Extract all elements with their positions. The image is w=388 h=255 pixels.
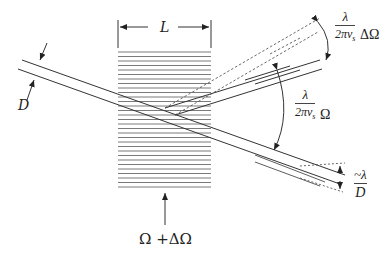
beam-diameter-label: D: [18, 98, 29, 112]
deflection-angle-numerator: λ: [302, 88, 308, 103]
grating-length-label: L: [160, 20, 169, 34]
scan-angle-suffix: ΔΩ: [360, 28, 379, 42]
scan-angle-fraction: λ 2πvs: [335, 10, 355, 43]
scan-angle-numerator: λ: [342, 10, 348, 25]
scan-angle-arc: [318, 22, 328, 60]
beam-diameter-arrows: [27, 43, 47, 100]
zero-order-beam-edges: [255, 155, 325, 186]
deflection-angle-suffix: Ω: [320, 108, 330, 122]
scan-angle-denominator: 2πvs: [335, 26, 355, 43]
divergence-denominator: D: [355, 184, 365, 200]
divergence-numerator: ~λ: [354, 168, 367, 183]
acoustic-grating: [118, 52, 211, 187]
deflection-angle-denominator: 2πvs: [295, 104, 315, 121]
divergence-fraction: ~λ D: [354, 168, 367, 200]
acousto-optic-diagram: [0, 0, 388, 255]
deflection-angle-fraction: λ 2πvs: [295, 88, 315, 121]
acoustic-frequency-label: Ω +ΔΩ: [139, 232, 192, 247]
